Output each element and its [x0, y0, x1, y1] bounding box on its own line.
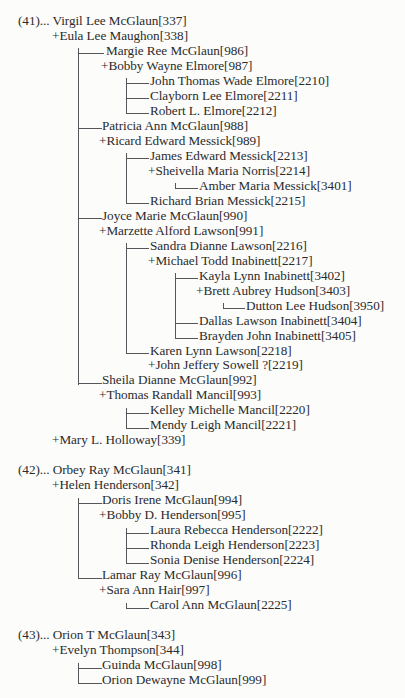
tree-horizontal-connector: [126, 413, 149, 414]
tree-horizontal-connector: [78, 503, 102, 504]
tree-vertical-connector: [126, 243, 127, 354]
tree-horizontal-connector: [126, 113, 149, 114]
tree-horizontal-connector: [78, 668, 102, 669]
tree-horizontal-connector: [78, 383, 102, 384]
tree-horizontal-connector: [78, 218, 102, 219]
descendant-chart: (41)... Virgil Lee McGlaun[337]+Eula Lee…: [0, 0, 405, 698]
tree-horizontal-connector: [78, 53, 104, 54]
tree-horizontal-connector: [126, 548, 149, 549]
tree-horizontal-connector: [126, 83, 149, 84]
tree-horizontal-connector: [175, 188, 198, 189]
tree-vertical-connector: [126, 408, 127, 429]
spouse-entry: +Mary L. Holloway[339]: [52, 431, 185, 449]
tree-horizontal-connector: [78, 578, 102, 579]
tree-vertical-connector: [78, 663, 79, 684]
tree-horizontal-connector: [126, 428, 149, 429]
tree-horizontal-connector: [126, 533, 149, 534]
tree-horizontal-connector: [126, 203, 149, 204]
tree-horizontal-connector: [126, 248, 149, 249]
tree-horizontal-connector: [126, 563, 149, 564]
tree-horizontal-connector: [223, 308, 245, 309]
tree-horizontal-connector: [126, 608, 149, 609]
child-entry: Orion Dewayne McGlaun[999]: [102, 671, 266, 689]
tree-horizontal-connector: [175, 338, 198, 339]
tree-horizontal-connector: [175, 323, 198, 324]
tree-horizontal-connector: [78, 683, 102, 684]
tree-vertical-connector: [126, 153, 127, 204]
tree-horizontal-connector: [78, 128, 102, 129]
tree-horizontal-connector: [126, 98, 149, 99]
tree-horizontal-connector: [175, 278, 198, 279]
tree-vertical-connector: [78, 498, 79, 579]
child-entry: Carol Ann McGlaun[2225]: [150, 596, 292, 614]
tree-vertical-connector: [78, 48, 79, 385]
tree-horizontal-connector: [126, 158, 149, 159]
tree-vertical-connector: [175, 273, 176, 339]
tree-horizontal-connector: [126, 353, 149, 354]
